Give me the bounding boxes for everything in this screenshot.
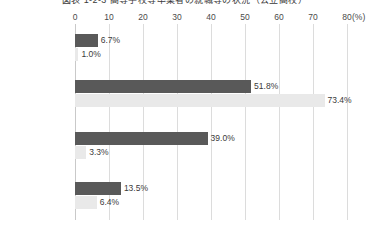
bar-series-2 [75, 48, 78, 61]
bar-value-label: 39.0% [211, 132, 235, 145]
bar-value-label: 73.4% [328, 94, 352, 107]
bar-group: 大学等進学率51.8%73.4% [75, 80, 347, 107]
page-title: 図表 1-2-3 高等学校等卒業者の就職等の状況（公立高校） [62, 0, 307, 6]
x-tick-label-10: 10 [104, 12, 113, 22]
bar-series-1 [75, 182, 121, 195]
bar-value-label: 1.0% [81, 48, 100, 61]
bar-group: 高校中退率6.7%1.0% [75, 34, 347, 61]
x-tick-label-40: 40 [206, 12, 215, 22]
chart-title-strip: 図表 1-2-3 高等学校等卒業者の就職等の状況（公立高校） [0, 0, 369, 7]
x-tick-label-30: 30 [172, 12, 181, 22]
gridline-80 [347, 24, 348, 220]
bar-series-2 [75, 196, 97, 209]
x-tick-label-50: 50 [240, 12, 249, 22]
x-tick-label-80: 80 [342, 12, 351, 22]
bar-series-2 [75, 146, 86, 159]
x-tick-label-60: 60 [274, 12, 283, 22]
x-axis: 01020304050607080 [75, 12, 347, 24]
bar-value-label: 51.8% [254, 80, 278, 93]
plot-area: 高校中退率6.7%1.0%大学等進学率51.8%73.4%就職者における 非正規… [75, 24, 347, 220]
x-tick-label-70: 70 [308, 12, 317, 22]
bar-series-1 [75, 80, 251, 93]
bar-series-1 [75, 34, 98, 47]
bar-group: 進学も就職も していない率13.5%6.4% [75, 182, 347, 209]
bar-value-label: 13.5% [124, 182, 148, 195]
bar-value-label: 6.7% [101, 34, 120, 47]
bar-series-1 [75, 132, 208, 145]
bar-value-label: 6.4% [100, 196, 119, 209]
x-tick-label-20: 20 [138, 12, 147, 22]
bar-group: 就職者における 非正規就職率39.0%3.3% [75, 132, 347, 159]
bar-value-label: 3.3% [89, 146, 108, 159]
x-tick-label-0: 0 [73, 12, 78, 22]
axis-unit-label: (%) [352, 12, 365, 22]
bar-series-2 [75, 94, 325, 107]
chart-root: 図表 1-2-3 高等学校等卒業者の就職等の状況（公立高校） 010203040… [0, 0, 369, 226]
